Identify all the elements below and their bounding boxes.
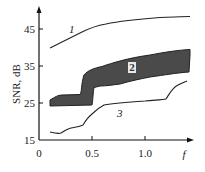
curve-label-3: 3 — [116, 107, 123, 119]
y-tick-label: 35 — [24, 60, 36, 72]
y-tick-label: 45 — [24, 23, 36, 35]
chart: 45 35 25 15 0 0.5 1.0 f SNR, dB 1 2 3 — [0, 0, 205, 172]
x-axis-arrow-icon — [187, 138, 194, 143]
x-axis-label: f — [182, 148, 187, 160]
x-tick-label: 0.5 — [85, 147, 99, 159]
x-tick-label: 1.0 — [138, 147, 152, 159]
region-2 — [50, 50, 190, 107]
curve-label-1: 1 — [69, 23, 75, 35]
x-tick-label: 0 — [36, 147, 42, 159]
y-axis-label: SNR, dB — [10, 64, 22, 104]
y-axis-arrow-icon — [37, 6, 42, 13]
y-tick-label: 25 — [24, 97, 36, 109]
y-tick-label: 15 — [24, 134, 36, 146]
curve-label-2: 2 — [129, 61, 135, 73]
